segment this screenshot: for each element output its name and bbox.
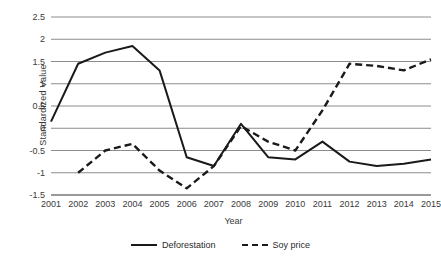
legend-swatch-solid-icon [131,244,157,246]
y-axis-tick-label: 2.5 [32,12,45,22]
x-axis-tick-label: 2007 [204,199,224,209]
x-axis-tick-label: 2015 [421,199,441,209]
x-axis-tick-label: 2010 [285,199,305,209]
x-axis-title-text: Year [224,216,242,226]
x-axis-tick-label: 2013 [367,199,387,209]
chart-legend: Deforestation Soy price [0,240,441,250]
plot-area: 2.521.510.50-0.5-1-1.5200120022003200420… [0,0,441,230]
series-line-soy-price [78,59,431,188]
x-axis-title: Year [0,216,441,226]
y-axis-tick-label: -1 [37,168,45,178]
legend-item-deforestation: Deforestation [131,240,216,250]
legend-label-soy-price: Soy price [273,240,311,250]
y-axis-tick-label: 2 [40,34,45,44]
y-axis-title-container: Standardized Value [0,10,20,200]
x-axis-tick-label: 2006 [177,199,197,209]
y-axis-tick-label: -0.5 [29,146,45,156]
x-axis-tick-label: 2003 [95,199,115,209]
x-axis-tick-label: 2009 [258,199,278,209]
x-axis-tick-label: 2012 [340,199,360,209]
legend-label-deforestation: Deforestation [162,240,216,250]
legend-swatch-dashed-icon [242,244,268,246]
x-axis-tick-label: 2004 [122,199,142,209]
x-axis-tick-label: 2001 [41,199,61,209]
x-axis-tick-label: 2005 [150,199,170,209]
x-axis-tick-label: 2002 [68,199,88,209]
y-axis-title: Standardized Value [38,64,48,146]
line-chart: Standardized Value 2.521.510.50-0.5-1-1.… [0,0,441,267]
x-axis-tick-label: 2008 [231,199,251,209]
x-axis-tick-label: 2014 [394,199,414,209]
legend-item-soy-price: Soy price [242,240,311,250]
x-axis-tick-label: 2011 [313,199,332,209]
